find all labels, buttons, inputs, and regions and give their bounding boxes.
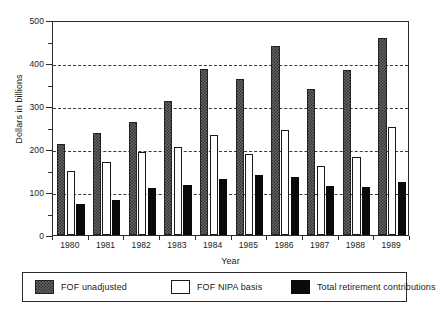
legend-swatch-icon [291, 280, 310, 294]
bar-1983-series-1 [174, 147, 182, 235]
y-axis: 0100200300400500 [0, 0, 52, 236]
legend-swatch-icon [171, 280, 190, 294]
legend-item-0[interactable]: FOF unadjusted [35, 280, 127, 294]
bar-1982-series-2 [148, 188, 156, 235]
legend-label: Total retirement contributions [317, 282, 436, 292]
plot-area [52, 21, 409, 236]
x-axis-tick-label: 1986 [274, 241, 293, 250]
bar-1984-series-2 [219, 179, 227, 235]
bar-1983-series-2 [183, 185, 191, 235]
bar-1986-series-2 [291, 177, 299, 235]
bar-1982-series-0 [129, 122, 137, 235]
x-axis-tick-label: 1981 [96, 241, 115, 250]
bar-1989-series-0 [378, 38, 386, 235]
x-axis-tick [52, 236, 53, 240]
legend-swatch-icon [35, 280, 54, 294]
x-axis-tick-label: 1987 [310, 241, 329, 250]
gridline [53, 151, 408, 152]
x-axis-tick [195, 236, 196, 240]
x-axis-tick-label: 1984 [203, 241, 222, 250]
bar-1985-series-1 [245, 154, 253, 235]
bar-1984-series-1 [210, 135, 218, 235]
x-axis-tick [409, 236, 410, 240]
gridline [53, 108, 408, 109]
bar-1988-series-1 [352, 157, 360, 235]
legend-label: FOF NIPA basis [197, 282, 262, 292]
bar-1982-series-1 [138, 152, 146, 235]
x-axis-tick [338, 236, 339, 240]
bar-1989-series-1 [388, 127, 396, 235]
bar-1984-series-0 [200, 69, 208, 235]
y-axis-tick-label: 400 [30, 60, 44, 69]
bar-1986-series-0 [271, 46, 279, 235]
bar-1981-series-2 [112, 200, 120, 235]
legend-item-2[interactable]: Total retirement contributions [291, 280, 436, 294]
x-axis-tick [159, 236, 160, 240]
bar-1986-series-1 [281, 130, 289, 235]
x-axis-tick-label: 1985 [239, 241, 258, 250]
x-axis-tick [266, 236, 267, 240]
x-axis-tick-label: 1982 [132, 241, 151, 250]
y-axis-tick-label: 300 [30, 103, 44, 112]
bar-1989-series-2 [398, 182, 406, 235]
bar-1987-series-0 [307, 89, 315, 235]
x-axis-tick [302, 236, 303, 240]
x-axis-tick-label: 1980 [60, 241, 79, 250]
bar-1987-series-1 [317, 166, 325, 235]
bar-1987-series-2 [326, 186, 334, 235]
y-axis-tick-label: 500 [30, 17, 44, 26]
y-axis-tick-label: 100 [30, 189, 44, 198]
x-axis-tick [88, 236, 89, 240]
bar-1985-series-0 [236, 79, 244, 235]
chart-legend: FOF unadjustedFOF NIPA basisTotal retire… [22, 272, 407, 302]
bar-1981-series-0 [93, 133, 101, 235]
bar-1980-series-2 [76, 204, 84, 235]
gridline [53, 65, 408, 66]
y-axis-tick-label: 200 [30, 146, 44, 155]
legend-item-1[interactable]: FOF NIPA basis [171, 280, 262, 294]
x-axis: 1980198119821983198419851986198719881989 [52, 236, 409, 256]
y-axis-tick-label: 0 [39, 232, 44, 241]
x-axis-tick [123, 236, 124, 240]
x-axis-tick-label: 1988 [346, 241, 365, 250]
x-axis-tick-label: 1989 [381, 241, 400, 250]
x-axis-tick [231, 236, 232, 240]
legend-label: FOF unadjusted [61, 282, 127, 292]
y-axis-title: Dollars in billions [14, 44, 24, 174]
x-axis-tick-label: 1983 [167, 241, 186, 250]
x-axis-tick [373, 236, 374, 240]
bar-1988-series-0 [343, 70, 351, 235]
bar-1988-series-2 [362, 187, 370, 235]
x-axis-title: Year [52, 256, 409, 266]
bar-1980-series-1 [67, 171, 75, 236]
bar-1981-series-1 [102, 162, 110, 235]
bar-1983-series-0 [164, 101, 172, 235]
bar-1985-series-2 [255, 175, 263, 235]
bar-1980-series-0 [57, 144, 65, 235]
